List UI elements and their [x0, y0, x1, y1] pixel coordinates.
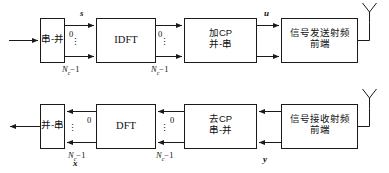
rx-dft-port-index-bottom: Nc−1: [156, 151, 173, 162]
tx-rf-frontend-label: 信号发送射频 前端: [281, 28, 358, 50]
rx-rf-frontend-label: 信号接收射频 前端: [281, 114, 358, 136]
rx-dft-port-dots: ⋮: [160, 124, 169, 133]
tx-signal-s-label: s: [80, 9, 84, 18]
rx-dft-label: DFT: [96, 120, 156, 132]
tx-signal-u-label: u: [264, 9, 269, 18]
rx-antenna-arm-left: [363, 89, 370, 98]
rx-ps-port-index-top: 0: [87, 116, 91, 125]
tx-serial-to-parallel-label: 串-并: [40, 34, 65, 45]
rx-ps-port-dots: ⋮: [68, 124, 77, 133]
ofdm-block-diagram: 串-并 IDFT 加CP 并-串 信号发送射频 前端 0 ⋮ Nc−1 0 ⋮ …: [0, 0, 389, 173]
rx-dft-line1: DFT: [116, 120, 136, 131]
tx-rf-line1: 信号发送射频: [290, 27, 350, 38]
rx-dft-port-index-top: 0: [170, 116, 174, 125]
rx-signal-y-label: y: [263, 155, 267, 164]
tx-idft-line1: IDFT: [114, 34, 137, 45]
tx-rf-line2: 前端: [281, 39, 358, 50]
rx-rf-line2: 前端: [281, 125, 358, 136]
tx-idft-port-index-bottom: Nc−1: [151, 65, 168, 76]
tx-add-cp-line1: 加CP: [209, 27, 232, 38]
rx-ps-line1: 并-串: [41, 119, 64, 130]
rx-rf-line1: 信号接收射频: [290, 113, 350, 124]
tx-antenna-arm-left: [363, 3, 370, 12]
tx-antenna-arm-right: [370, 3, 377, 12]
rx-remove-cp-line1: 去CP: [209, 113, 232, 124]
tx-idft-port-dots: ⋮: [160, 38, 169, 47]
tx-antenna-feed: [358, 23, 370, 41]
rx-antenna-feed: [358, 109, 370, 127]
tx-add-cp-line2: 并-串: [184, 39, 257, 50]
rx-parallel-to-serial-label: 并-串: [40, 120, 65, 131]
tx-sp-line1: 串-并: [41, 33, 64, 44]
tx-add-cp-label: 加CP 并-串: [184, 28, 257, 50]
rx-remove-cp-line2: 串-并: [184, 125, 257, 136]
tx-idft-label: IDFT: [96, 34, 156, 46]
tx-sp-port-dots: ⋮: [71, 38, 80, 47]
rx-signal-x-label: x: [73, 159, 78, 168]
rx-antenna-arm-right: [370, 89, 377, 98]
diagram-canvas: [0, 0, 389, 173]
tx-sp-port-index-bottom: Nc−1: [62, 65, 79, 76]
rx-remove-cp-label: 去CP 串-并: [184, 114, 257, 136]
